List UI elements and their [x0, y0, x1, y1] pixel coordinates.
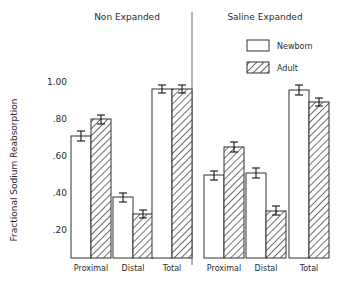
y-tick-0-40: .40	[53, 188, 68, 198]
bar-group-left-total	[152, 85, 192, 258]
x-label-left-proximal: Proximal	[74, 264, 108, 273]
y-tick-0-20: .20	[53, 225, 68, 235]
bar-left-total-newborn	[152, 89, 172, 258]
legend-swatch-newborn	[247, 40, 269, 51]
legend-label-newborn: Newborn	[277, 42, 313, 51]
panel-title-right: Saline Expanded	[227, 12, 302, 22]
legend-label-adult: Adult	[277, 64, 298, 73]
bar-left-total-adult	[172, 89, 192, 258]
panel-title-left: Non Expanded	[94, 12, 160, 22]
x-label-right-distal: Distal	[255, 264, 278, 273]
bar-right-distal-adult	[266, 211, 286, 258]
legend-swatch-adult	[247, 62, 269, 73]
bar-group-right-total	[289, 85, 329, 258]
bar-right-proximal-adult	[224, 147, 244, 258]
chart-legend: Newborn Adult	[247, 40, 313, 73]
x-label-left-distal: Distal	[122, 264, 145, 273]
bar-group-left-proximal	[71, 115, 111, 258]
y-tick-0-60: .60	[53, 151, 68, 161]
chart-figure: Non Expanded Saline Expanded Fractional …	[0, 0, 342, 295]
bar-right-total-adult	[309, 102, 329, 258]
x-label-right-total: Total	[299, 264, 319, 273]
bar-right-proximal-newborn	[204, 175, 224, 258]
bar-left-distal-adult	[133, 214, 153, 258]
bar-right-total-newborn	[289, 90, 309, 258]
y-tick-1-00: 1.00	[47, 77, 67, 87]
x-label-right-proximal: Proximal	[207, 264, 241, 273]
bar-left-proximal-adult	[91, 119, 111, 258]
bar-left-distal-newborn	[113, 197, 133, 258]
bar-group-left-distal	[113, 193, 153, 258]
y-axis-label: Fractional Sodium Reabsorption	[9, 98, 19, 241]
bar-group-right-distal	[246, 168, 286, 258]
sodium-reabsorption-bar-chart: Non Expanded Saline Expanded Fractional …	[0, 0, 342, 295]
bar-right-distal-newborn	[246, 173, 266, 258]
bar-group-right-proximal	[204, 142, 244, 258]
y-tick-0-80: .80	[53, 114, 68, 124]
x-label-left-total: Total	[162, 264, 182, 273]
bar-left-proximal-newborn	[71, 136, 91, 258]
